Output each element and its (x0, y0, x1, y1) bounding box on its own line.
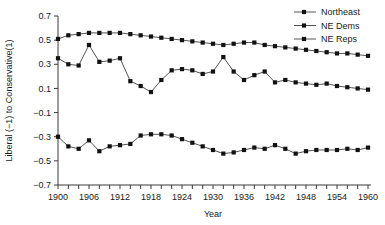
series-marker-1 (273, 143, 277, 147)
series-marker-1 (87, 138, 91, 142)
series-marker-0 (170, 68, 174, 72)
x-tick-label: 1930 (203, 192, 223, 202)
series-marker-0 (345, 85, 349, 89)
series-marker-1 (294, 152, 298, 156)
y-tick-label: −0.3 (33, 132, 51, 142)
series-marker-1 (108, 144, 112, 148)
series-marker-0 (263, 69, 267, 73)
series-marker-0 (294, 80, 298, 84)
series-marker-1 (263, 147, 267, 151)
series-marker-1 (211, 148, 215, 152)
series-marker-2 (139, 33, 143, 37)
series-marker-2 (325, 50, 329, 54)
series-marker-1 (139, 133, 143, 137)
series-marker-1 (66, 144, 70, 148)
x-tick-label: 1948 (296, 192, 316, 202)
series-marker-2 (159, 36, 163, 40)
series-marker-0 (77, 63, 81, 67)
series-marker-0 (139, 84, 143, 88)
legend-marker-1 (302, 23, 306, 27)
chart-container: −0.7−0.5−0.3−0.10.10.30.50.7190019061912… (0, 0, 385, 225)
series-marker-1 (283, 147, 287, 151)
series-marker-0 (149, 90, 153, 94)
series-marker-2 (211, 42, 215, 46)
series-marker-2 (118, 31, 122, 35)
series-marker-1 (345, 147, 349, 151)
series-marker-1 (118, 143, 122, 147)
y-axis-title: Liberal (−1) to Conservative(1) (4, 40, 14, 162)
y-tick-label: 0.5 (38, 35, 51, 45)
series-marker-2 (263, 43, 267, 47)
series-marker-1 (159, 132, 163, 136)
series-marker-1 (170, 133, 174, 137)
x-tick-label: 1960 (358, 192, 378, 202)
series-marker-0 (108, 59, 112, 63)
series-marker-0 (221, 55, 225, 59)
series-marker-0 (211, 69, 215, 73)
series-marker-2 (77, 32, 81, 36)
series-marker-0 (366, 88, 370, 92)
series-marker-1 (180, 137, 184, 141)
x-tick-label: 1900 (48, 192, 68, 202)
series-marker-0 (128, 79, 132, 83)
series-marker-1 (335, 148, 339, 152)
y-tick-label: −0.7 (33, 180, 51, 190)
series-marker-2 (366, 54, 370, 58)
y-tick-label: −0.1 (33, 108, 51, 118)
series-marker-2 (108, 31, 112, 35)
series-marker-0 (159, 78, 163, 82)
x-tick-label: 1954 (327, 192, 347, 202)
series-marker-1 (304, 149, 308, 153)
x-tick-label: 1942 (265, 192, 285, 202)
series-marker-2 (201, 40, 205, 44)
series-marker-1 (232, 150, 236, 154)
series-marker-2 (170, 37, 174, 41)
series-marker-2 (283, 45, 287, 49)
series-marker-2 (345, 51, 349, 55)
series-marker-1 (314, 148, 318, 152)
series-marker-1 (56, 135, 60, 139)
series-marker-2 (128, 32, 132, 36)
series-marker-2 (66, 33, 70, 37)
series-marker-0 (356, 86, 360, 90)
series-marker-2 (232, 42, 236, 46)
series-marker-0 (232, 69, 236, 73)
series-marker-0 (201, 72, 205, 76)
series-marker-1 (252, 145, 256, 149)
series-marker-1 (366, 145, 370, 149)
series-marker-1 (97, 149, 101, 153)
series-marker-2 (242, 40, 246, 44)
series-marker-0 (314, 83, 318, 87)
legend-marker-0 (302, 10, 306, 14)
x-tick-label: 1906 (79, 192, 99, 202)
y-tick-label: −0.5 (33, 156, 51, 166)
legend-label-1: NE Dems (321, 21, 360, 31)
line-chart: −0.7−0.5−0.3−0.10.10.30.50.7190019061912… (0, 0, 385, 225)
series-marker-0 (180, 67, 184, 71)
x-tick-label: 1936 (234, 192, 254, 202)
series-marker-2 (314, 49, 318, 53)
y-tick-label: 0.1 (38, 84, 51, 94)
series-marker-1 (77, 147, 81, 151)
series-marker-1 (128, 142, 132, 146)
series-marker-0 (56, 56, 60, 60)
series-marker-0 (283, 78, 287, 82)
series-marker-1 (190, 141, 194, 145)
series-marker-1 (325, 148, 329, 152)
series-marker-1 (356, 148, 360, 152)
series-marker-1 (201, 144, 205, 148)
series-marker-0 (273, 80, 277, 84)
series-marker-1 (149, 132, 153, 136)
legend-marker-2 (302, 37, 306, 41)
x-tick-label: 1912 (110, 192, 130, 202)
series-marker-2 (87, 31, 91, 35)
x-axis-title: Year (204, 209, 222, 219)
series-marker-0 (66, 62, 70, 66)
series-marker-0 (242, 78, 246, 82)
series-marker-2 (221, 43, 225, 47)
series-marker-2 (294, 46, 298, 50)
series-marker-0 (325, 82, 329, 86)
series-marker-0 (97, 60, 101, 64)
y-tick-label: 0.7 (38, 11, 51, 21)
x-tick-label: 1918 (141, 192, 161, 202)
